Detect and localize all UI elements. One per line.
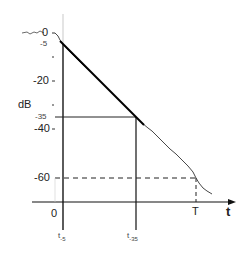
t-5-label: t-5: [58, 231, 66, 242]
x-tick-T: T: [192, 205, 199, 217]
y-tick-35: -35: [35, 112, 47, 121]
y-tick-5: -5: [40, 39, 47, 48]
linear-fit-line: [60, 41, 144, 125]
t-35-label: t-35: [127, 231, 138, 242]
y-tick-40: -40: [34, 122, 50, 134]
y-axis-label: dB: [18, 98, 31, 110]
y-tick-20: -20: [33, 74, 49, 86]
y-tick-0: 0: [42, 26, 48, 38]
decay-noise-lead: [22, 31, 44, 34]
y-tick-60: -60: [34, 171, 50, 183]
x-axis-label: t: [226, 204, 230, 219]
x-tick-0: 0: [51, 207, 57, 219]
